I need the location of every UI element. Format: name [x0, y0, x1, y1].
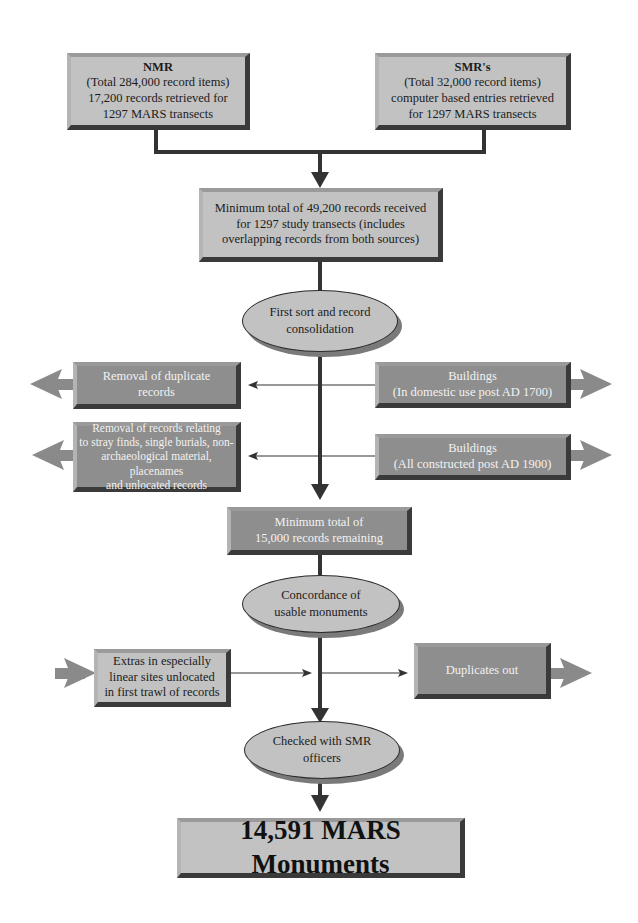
in-arrow-extras	[55, 658, 96, 688]
out-arrow-right-2	[570, 440, 612, 470]
duplicates-out-box: Duplicates out	[414, 643, 551, 699]
extras-line: Extras in especially	[113, 654, 211, 670]
nmr-source-box: NMR (Total 284,000 record items) 17,200 …	[67, 53, 250, 130]
removal-line: records	[138, 385, 175, 401]
removal-line: to stray finds, single burials, non-	[79, 435, 233, 449]
remaining-line: Minimum total of	[275, 515, 364, 531]
combined-line: Minimum total of 49,200 records received	[215, 201, 427, 217]
nmr-line: 1297 MARS transects	[103, 107, 213, 123]
nmr-line: 17,200 records retrieved for	[88, 91, 228, 107]
smr-title: SMR's	[454, 60, 490, 76]
smr-line: computer based entries retrieved	[391, 91, 554, 107]
removal-line: and unlocated records	[106, 478, 207, 492]
combined-records-box: Minimum total of 49,200 records received…	[199, 188, 443, 262]
concordance-oval: Concordance of usable monuments	[242, 575, 400, 633]
smr-source-box: SMR's (Total 32,000 record items) comput…	[375, 53, 571, 130]
nmr-line: (Total 284,000 record items)	[87, 75, 230, 91]
buildings-constructed-box: Buildings (All constructed post AD 1900)	[375, 434, 571, 480]
concordance-line: usable monuments	[274, 604, 367, 621]
buildings-line: (In domestic use post AD 1700)	[393, 385, 552, 401]
removal-stray-finds-box: Removal of records relating to stray fin…	[73, 422, 241, 492]
removal-line: Removal of duplicate	[103, 369, 211, 385]
removal-line: Removal of records relating	[92, 421, 221, 435]
final-monuments-box: 14,591 MARS Monuments	[177, 818, 465, 878]
concordance-line: Concordance of	[281, 587, 360, 604]
checked-smr-oval: Checked with SMR officers	[244, 721, 400, 779]
merge-bracket	[154, 128, 486, 152]
records-remaining-box: Minimum total of 15,000 records remainin…	[227, 507, 412, 555]
first-sort-line: consolidation	[286, 321, 353, 338]
final-monuments-label: 14,591 MARS Monuments	[181, 814, 460, 882]
out-arrow-left-2	[32, 440, 73, 470]
out-arrow-left-1	[30, 369, 73, 399]
buildings-line: Buildings	[448, 441, 497, 457]
extras-line: in first trawl of records	[104, 685, 219, 701]
extras-in-box: Extras in especially linear sites unloca…	[94, 649, 231, 707]
duplicates-out-label: Duplicates out	[446, 663, 519, 679]
smr-line: for 1297 MARS transects	[408, 107, 536, 123]
checked-line: Checked with SMR	[273, 733, 372, 750]
buildings-line: (All constructed post AD 1900)	[394, 457, 552, 473]
extras-line: linear sites unlocated	[109, 670, 215, 686]
combined-line: for 1297 study transects (includes	[236, 217, 405, 233]
out-arrow-right-1	[570, 369, 612, 399]
removal-line: archaeological material, placenames	[77, 449, 236, 478]
first-sort-line: First sort and record	[269, 304, 370, 321]
smr-line: (Total 32,000 record items)	[404, 75, 541, 91]
remaining-line: 15,000 records remaining	[255, 531, 383, 547]
checked-line: officers	[303, 750, 341, 767]
buildings-line: Buildings	[448, 369, 497, 385]
first-sort-oval: First sort and record consolidation	[242, 290, 398, 352]
removal-duplicates-box: Removal of duplicate records	[73, 362, 241, 409]
combined-line: overlapping records from both sources)	[222, 232, 419, 248]
nmr-title: NMR	[143, 60, 173, 76]
buildings-domestic-box: Buildings (In domestic use post AD 1700)	[375, 362, 571, 408]
out-arrow-duplicates	[545, 658, 592, 688]
